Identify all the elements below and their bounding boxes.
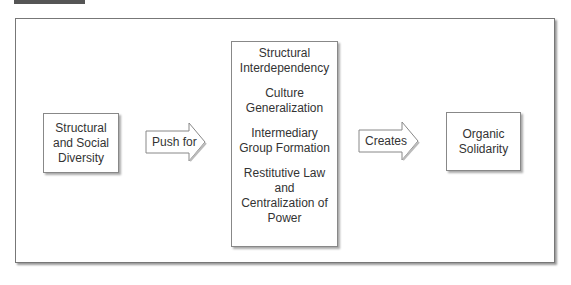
mechanism-item: Structural Interdependency [240, 46, 329, 76]
item-text-line: and [241, 181, 328, 196]
arrow-label: Creates [358, 121, 407, 161]
box-text-line: Organic [462, 127, 504, 142]
mechanism-item: Culture Generalization [246, 86, 323, 116]
item-text-line: Generalization [246, 101, 323, 116]
box-text-line: Structural [55, 121, 106, 136]
item-text-line: Restitutive Law [241, 166, 328, 181]
mechanism-item: Intermediary Group Formation [239, 126, 330, 156]
arrow-label: Push for [145, 122, 197, 162]
header-bar [14, 0, 85, 4]
structural-social-diversity-box: Structural and Social Diversity [43, 113, 119, 173]
box-text-line: Diversity [58, 151, 104, 166]
box-text-line: Solidarity [459, 142, 508, 157]
item-text-line: Intermediary [239, 126, 330, 141]
organic-solidarity-box: Organic Solidarity [446, 112, 521, 171]
item-text-line: Culture [246, 86, 323, 101]
push-for-arrow: Push for [145, 122, 207, 162]
creates-arrow: Creates [358, 121, 420, 161]
item-text-line: Group Formation [239, 141, 330, 156]
item-text-line: Power [241, 211, 328, 226]
mechanisms-box: Structural Interdependency Culture Gener… [231, 41, 338, 247]
item-text-line: Structural [240, 46, 329, 61]
item-text-line: Centralization of [241, 196, 328, 211]
item-text-line: Interdependency [240, 61, 329, 76]
box-text-line: and Social [53, 136, 109, 151]
mechanism-item: Restitutive Law and Centralization of Po… [241, 166, 328, 226]
